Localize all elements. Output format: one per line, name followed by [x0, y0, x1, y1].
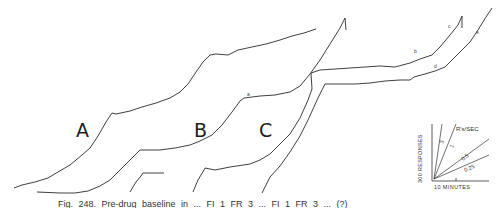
legend-x-axis-label: 10 MINUTES [434, 184, 470, 190]
curve-c [262, 8, 492, 193]
curve-label-a: A [76, 119, 89, 141]
point-label-c: c [448, 23, 451, 29]
curve-b-short [130, 173, 164, 192]
legend-y-axis-label: 300 RESPONSES [417, 134, 423, 183]
point-label-d: d [434, 63, 437, 69]
point-label-e: e [476, 29, 479, 35]
point-label-a: a [247, 91, 250, 97]
curve-label-c: C [259, 119, 272, 141]
rate-line-3 [434, 124, 442, 179]
cumulative-record-figure [0, 0, 500, 208]
figure-caption: Fig. 248. Pre-drug baseline in ... FI 1 … [58, 198, 348, 208]
curve-a-upper [14, 29, 316, 188]
curve-a-lower [37, 18, 346, 193]
rate-legend-graphic [432, 124, 489, 181]
point-label-b: b [414, 48, 417, 54]
curve-label-b: B [194, 119, 207, 141]
legend-rate-title: R's/SEC [456, 126, 478, 132]
